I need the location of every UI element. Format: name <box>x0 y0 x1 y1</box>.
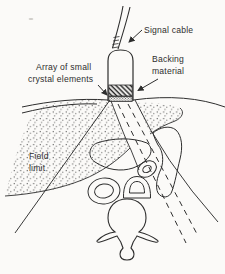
curved-structure-hook <box>153 127 182 197</box>
scan-smudge <box>29 18 34 20</box>
signal-cable <box>112 6 130 49</box>
dome-shaped-ring <box>123 177 150 199</box>
crystal-array-arrow <box>98 85 107 95</box>
probe-body <box>108 50 133 102</box>
ultrasound-transducer-diagram: Signal cable Backing material Array of s… <box>0 0 225 274</box>
signal-cable-arrow <box>129 30 142 42</box>
backing-material-arrow <box>138 79 158 91</box>
field-limit-label-line2: limit <box>29 163 46 173</box>
backing-material-label-line1: Backing <box>152 54 184 64</box>
crystal-array-label-line2: crystal elements <box>28 74 93 84</box>
field-limit-label-line1: Field <box>29 151 49 161</box>
backing-material-label-line2: material <box>152 66 184 76</box>
vertebra-cross-section <box>97 199 158 260</box>
crystal-array-label-line1: Array of small <box>36 62 91 72</box>
signal-cable-label: Signal cable <box>144 25 193 35</box>
diagram-page: Signal cable Backing material Array of s… <box>0 0 225 274</box>
backing-material-hatch <box>109 85 132 96</box>
tilted-small-ring <box>135 157 160 180</box>
crystal-element-array-band <box>109 97 132 102</box>
